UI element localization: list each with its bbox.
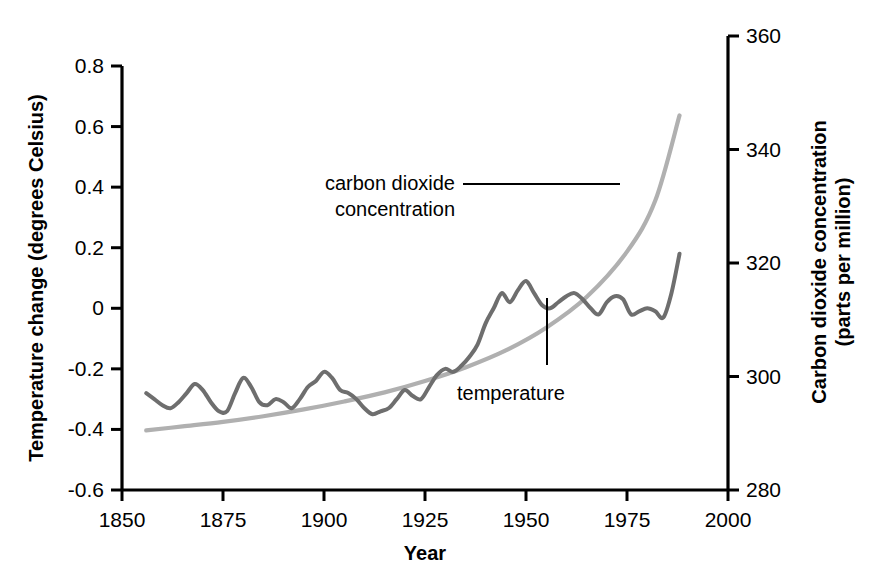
co2-annotation-line1: carbon dioxide bbox=[325, 172, 455, 194]
x-axis-tick-label: 1950 bbox=[503, 508, 550, 531]
y-axis-right-tick-labels: 360340320300280 bbox=[746, 24, 781, 501]
y-axis-left-tick-label: -0.4 bbox=[68, 417, 105, 440]
y-axis-left-tick-label: -0.6 bbox=[68, 478, 104, 501]
x-axis-title: Year bbox=[404, 542, 446, 564]
y-axis-left-title: Temperature change (degrees Celsius) bbox=[25, 94, 47, 462]
co2-annotation-line2: concentration bbox=[335, 198, 455, 220]
x-axis-tick-label: 1975 bbox=[604, 508, 651, 531]
x-axis-tick-label: 1850 bbox=[99, 508, 146, 531]
y-axis-left-tick-label: 0.8 bbox=[75, 54, 104, 77]
x-axis-tick-label: 1875 bbox=[200, 508, 247, 531]
x-axis-ticks bbox=[122, 490, 728, 501]
x-axis-tick-label: 1900 bbox=[301, 508, 348, 531]
y-axis-left-tick-label: 0 bbox=[92, 296, 104, 319]
x-axis-tick-label: 2000 bbox=[705, 508, 752, 531]
chart-svg: 0.80.60.40.20-0.2-0.4-0.6 36034032030028… bbox=[0, 0, 872, 581]
y-axis-left-tick-label: 0.6 bbox=[75, 115, 104, 138]
co2-line bbox=[146, 115, 679, 430]
x-axis-tick-labels: 1850187519001925195019752000 bbox=[99, 508, 752, 531]
y-axis-right-ticks bbox=[728, 36, 739, 490]
y-axis-left-tick-label: 0.4 bbox=[75, 175, 105, 198]
chart-container: 0.80.60.40.20-0.2-0.4-0.6 36034032030028… bbox=[0, 0, 872, 581]
y-axis-right-tick-label: 280 bbox=[746, 478, 781, 501]
y-axis-left-ticks bbox=[111, 66, 122, 490]
y-axis-right-title-line1: Carbon dioxide concentration bbox=[808, 120, 830, 403]
y-axis-right-tick-label: 320 bbox=[746, 251, 781, 274]
y-axis-right-tick-label: 360 bbox=[746, 24, 781, 47]
temperature-line bbox=[146, 254, 679, 415]
y-axis-right-title-line2: (parts per million) bbox=[832, 178, 854, 347]
temperature-annotation-label: temperature bbox=[457, 382, 565, 404]
y-axis-left-tick-label: -0.2 bbox=[68, 357, 104, 380]
y-axis-right-tick-label: 340 bbox=[746, 138, 781, 161]
y-axis-left-tick-label: 0.2 bbox=[75, 236, 104, 259]
y-axis-left-tick-labels: 0.80.60.40.20-0.2-0.4-0.6 bbox=[68, 54, 105, 501]
y-axis-right-tick-label: 300 bbox=[746, 365, 781, 388]
x-axis-tick-label: 1925 bbox=[402, 508, 449, 531]
carbon-dioxide-annotation: carbon dioxide concentration bbox=[325, 172, 620, 220]
